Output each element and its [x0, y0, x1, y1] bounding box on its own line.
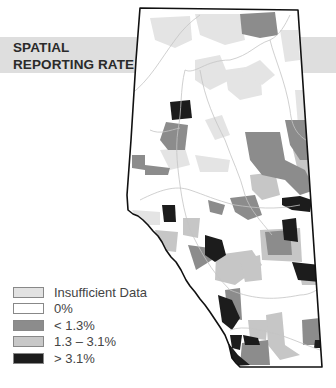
title-line-2: REPORTING RATE [13, 56, 134, 73]
legend-label: < 1.3% [54, 318, 95, 333]
legend-swatch [13, 303, 44, 314]
figure-title: SPATIAL REPORTING RATE [13, 39, 134, 73]
legend-label: Insufficient Data [54, 285, 147, 300]
legend-swatch [13, 353, 44, 364]
legend-swatch [13, 287, 44, 298]
legend-swatch [13, 336, 44, 347]
legend-swatch [13, 320, 44, 331]
legend-item-1-3-to-3-1: 1.3 – 3.1% [13, 334, 147, 351]
legend: Insufficient Data 0% < 1.3% 1.3 – 3.1% >… [13, 284, 147, 367]
legend-label: > 3.1% [54, 351, 95, 366]
legend-item-below-1-3: < 1.3% [13, 317, 147, 334]
legend-item-above-3-1: > 3.1% [13, 350, 147, 367]
legend-label: 0% [54, 301, 73, 316]
title-line-1: SPATIAL [13, 39, 134, 56]
legend-item-zero-percent: 0% [13, 301, 147, 318]
spatial-reporting-rate-map-figure: SPATIAL REPORTING RATE Insufficient Data… [0, 0, 336, 388]
legend-item-insufficient-data: Insufficient Data [13, 284, 147, 301]
legend-label: 1.3 – 3.1% [54, 334, 116, 349]
